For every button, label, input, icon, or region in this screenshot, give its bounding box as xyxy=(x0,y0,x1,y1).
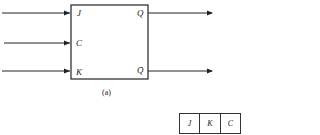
table-header-k: K xyxy=(200,114,220,134)
input-label-c: C xyxy=(76,39,82,48)
output-label-q: Q xyxy=(137,9,144,18)
table-header-row: J K C xyxy=(180,114,241,134)
table-header-c: C xyxy=(220,114,240,134)
input-label-j: J xyxy=(77,9,81,18)
truth-table: J K C xyxy=(179,113,241,134)
output-label-q-bar: Q̄ xyxy=(137,66,144,75)
table-header-j: J xyxy=(180,114,200,134)
input-label-k: K xyxy=(76,68,82,77)
figure-caption: (a) xyxy=(102,88,111,97)
